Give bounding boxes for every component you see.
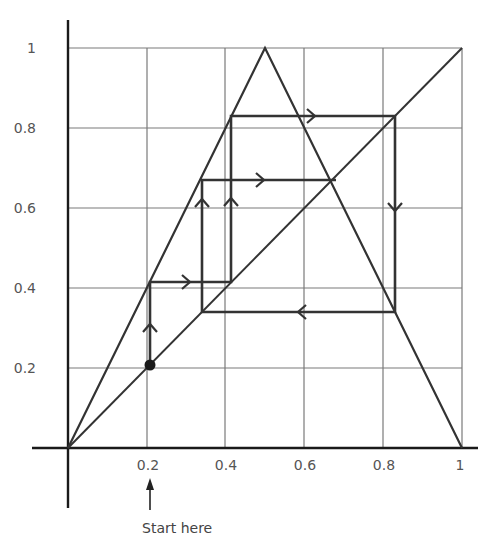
diagram-canvas: 0.2 0.4 0.6 0.8 1 0.2 0.4 0.6 0.8 1 Star… — [0, 0, 490, 548]
y-tick-label: 0.6 — [14, 200, 36, 216]
x-tick-label: 0.6 — [294, 457, 316, 473]
y-tick-label: 0.2 — [14, 360, 36, 376]
direction-arrows — [143, 109, 402, 332]
y-tick-label: 1 — [27, 40, 36, 56]
start-arrow-icon — [146, 478, 154, 510]
x-tick-label: 0.2 — [137, 457, 159, 473]
x-tick-label: 0.8 — [373, 457, 395, 473]
axes — [32, 20, 478, 508]
identity-line — [68, 48, 462, 448]
start-point — [145, 360, 156, 371]
start-annotation: Start here — [142, 520, 212, 536]
y-tick-label: 0.4 — [14, 280, 36, 296]
x-tick-label: 0.4 — [215, 457, 237, 473]
y-tick-labels: 0.2 0.4 0.6 0.8 1 — [14, 40, 36, 376]
x-tick-label: 1 — [456, 457, 465, 473]
y-tick-label: 0.8 — [14, 120, 36, 136]
x-tick-labels: 0.2 0.4 0.6 0.8 1 — [137, 457, 465, 473]
cobweb-diagram: 0.2 0.4 0.6 0.8 1 0.2 0.4 0.6 0.8 1 Star… — [0, 0, 490, 548]
